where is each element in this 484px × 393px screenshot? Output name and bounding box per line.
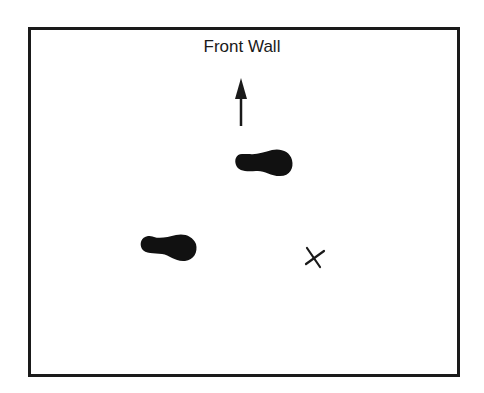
diagram-canvas — [0, 0, 484, 393]
arrow-up-icon — [235, 78, 247, 126]
footprint-lower-icon — [141, 234, 197, 261]
x-mark-icon — [306, 248, 324, 267]
footprint-upper-icon — [235, 149, 292, 176]
